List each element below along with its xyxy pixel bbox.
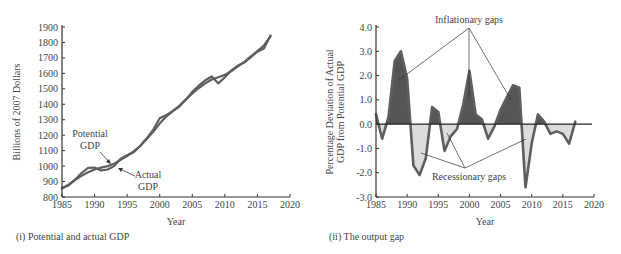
potential-gdp-label-line1: Potential xyxy=(72,128,108,139)
right-y-tick-label: -2.0 xyxy=(356,167,372,178)
right-x-tick-label: 1995 xyxy=(428,199,448,210)
left-y-axis-title: Billions of 2007 Dollars xyxy=(11,63,22,160)
right-y-tick-label: 3.0 xyxy=(360,46,373,57)
left-x-tick-label: 2020 xyxy=(280,199,300,210)
right-y-tick-label: 4.0 xyxy=(360,22,373,33)
right-x-tick-label: 2020 xyxy=(584,199,604,210)
left-x-tick-label: 2000 xyxy=(150,199,170,210)
left-y-tick-label: 1300 xyxy=(38,114,58,125)
right-x-tick-label: 1985 xyxy=(366,199,386,210)
left-y-tick-label: 900 xyxy=(43,176,58,187)
left-y-tick-label: 1600 xyxy=(38,68,58,79)
left-x-tick-label: 2010 xyxy=(215,199,235,210)
output-gap-chart: -3.0-2.0-1.00.01.02.03.04.01985199019952… xyxy=(324,14,604,243)
right-y-tick-label: -1.0 xyxy=(356,143,372,154)
right-y-tick-label: 2.0 xyxy=(360,70,373,81)
recessionary-pointer-3 xyxy=(465,139,526,168)
recessionary-gaps-label: Recessionary gaps xyxy=(432,171,506,182)
actual-gdp-label-line1: Actual xyxy=(135,169,162,180)
potential-gdp-label-line2: GDP xyxy=(80,140,100,151)
actual-gdp-line xyxy=(62,36,271,189)
left-y-tick-label: 1700 xyxy=(38,52,58,63)
left-y-tick-label: 1900 xyxy=(38,22,58,33)
left-y-tick-label: 1000 xyxy=(38,161,58,172)
left-y-tick-label: 1400 xyxy=(38,99,58,110)
left-x-tick-label: 2005 xyxy=(182,199,202,210)
left-y-tick-label: 1500 xyxy=(38,83,58,94)
potential-gdp-annotation: Potential GDP xyxy=(72,128,111,164)
right-x-axis-title: Year xyxy=(476,216,495,227)
figure: 8009001000110012001300140015001600170018… xyxy=(0,0,621,254)
right-y-tick-label: 1.0 xyxy=(360,94,373,105)
left-caption: (i) Potential and actual GDP xyxy=(16,231,130,243)
inflationary-pointer-3 xyxy=(469,28,511,100)
inflationary-gaps-label: Inflationary gaps xyxy=(435,14,503,25)
potential-actual-gdp-chart: 8009001000110012001300140015001600170018… xyxy=(11,22,300,244)
left-x-tick-label: 1995 xyxy=(117,199,137,210)
right-x-tick-label: 2010 xyxy=(522,199,542,210)
potential-gdp-line xyxy=(62,36,271,188)
left-y-tick-label: 1100 xyxy=(38,145,58,156)
recessionary-gaps-annotation: Recessionary gaps xyxy=(421,133,526,182)
right-x-tick-label: 2000 xyxy=(459,199,479,210)
actual-gdp-arrow xyxy=(120,169,135,176)
left-y-tick-label: 1800 xyxy=(38,37,58,48)
right-x-tick-label: 2005 xyxy=(491,199,511,210)
left-x-tick-label: 2015 xyxy=(247,199,267,210)
left-x-axis-title: Year xyxy=(167,216,186,227)
right-y-axis-title-line1: Percentage Deviation of Actual xyxy=(324,49,335,174)
right-y-tick-label: 0.0 xyxy=(360,119,373,130)
actual-gdp-annotation: Actual GDP xyxy=(118,168,162,192)
right-x-tick-label: 1990 xyxy=(397,199,417,210)
inflationary-pointer-1 xyxy=(399,28,469,80)
left-x-tick-label: 1990 xyxy=(85,199,105,210)
actual-gdp-label-line2: GDP xyxy=(138,181,158,192)
inflationary-gap-area xyxy=(495,85,521,124)
inflationary-gaps-annotation: Inflationary gaps xyxy=(399,14,511,100)
left-y-tick-label: 1200 xyxy=(38,130,58,141)
right-caption: (ii) The output gap xyxy=(329,231,404,243)
right-x-tick-label: 2015 xyxy=(553,199,573,210)
gdp-series-lines xyxy=(62,36,271,189)
left-x-tick-label: 1985 xyxy=(52,199,72,210)
right-y-axis-title-line2: GDP from Potential GDP xyxy=(335,61,346,164)
